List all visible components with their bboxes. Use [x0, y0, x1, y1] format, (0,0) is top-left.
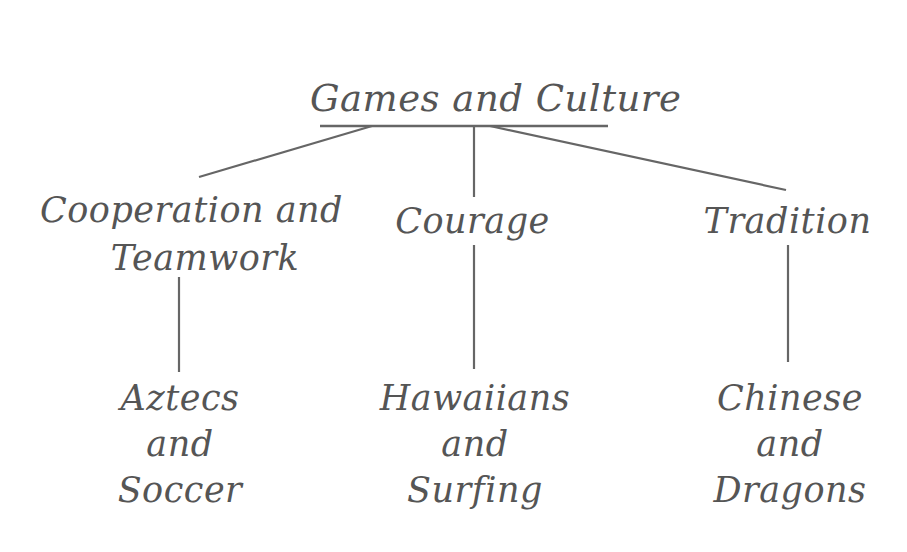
example-label-line: and	[100, 421, 260, 467]
theme-label-line: Tradition	[700, 198, 875, 244]
theme-node-cooperation: Cooperation and Teamwork	[40, 186, 340, 282]
root-label: Games and Culture	[310, 76, 645, 122]
example-node-hawaiians-surfing: Hawaiians and Surfing	[370, 375, 580, 513]
example-label-line: and	[710, 421, 870, 467]
example-label-line: Hawaiians	[370, 375, 580, 421]
theme-label-line: Courage	[395, 198, 550, 244]
example-node-aztecs-soccer: Aztecs and Soccer	[100, 375, 260, 513]
example-label-line: Soccer	[100, 467, 260, 513]
connector-root-to-tradition	[490, 126, 786, 190]
example-label-line: Chinese	[710, 375, 870, 421]
theme-node-tradition: Tradition	[700, 198, 875, 244]
example-label-line: and	[370, 421, 580, 467]
connector-root-to-cooperation	[199, 126, 372, 177]
theme-label-line: Cooperation and	[40, 186, 340, 234]
example-label-line: Aztecs	[100, 375, 260, 421]
example-label-line: Surfing	[370, 467, 580, 513]
concept-tree-diagram: Games and Culture Cooperation and Teamwo…	[0, 0, 907, 552]
example-label-line: Dragons	[710, 467, 870, 513]
example-node-chinese-dragons: Chinese and Dragons	[710, 375, 870, 513]
root-node: Games and Culture	[310, 76, 645, 122]
theme-node-courage: Courage	[395, 198, 550, 244]
theme-label-line: Teamwork	[40, 234, 340, 282]
